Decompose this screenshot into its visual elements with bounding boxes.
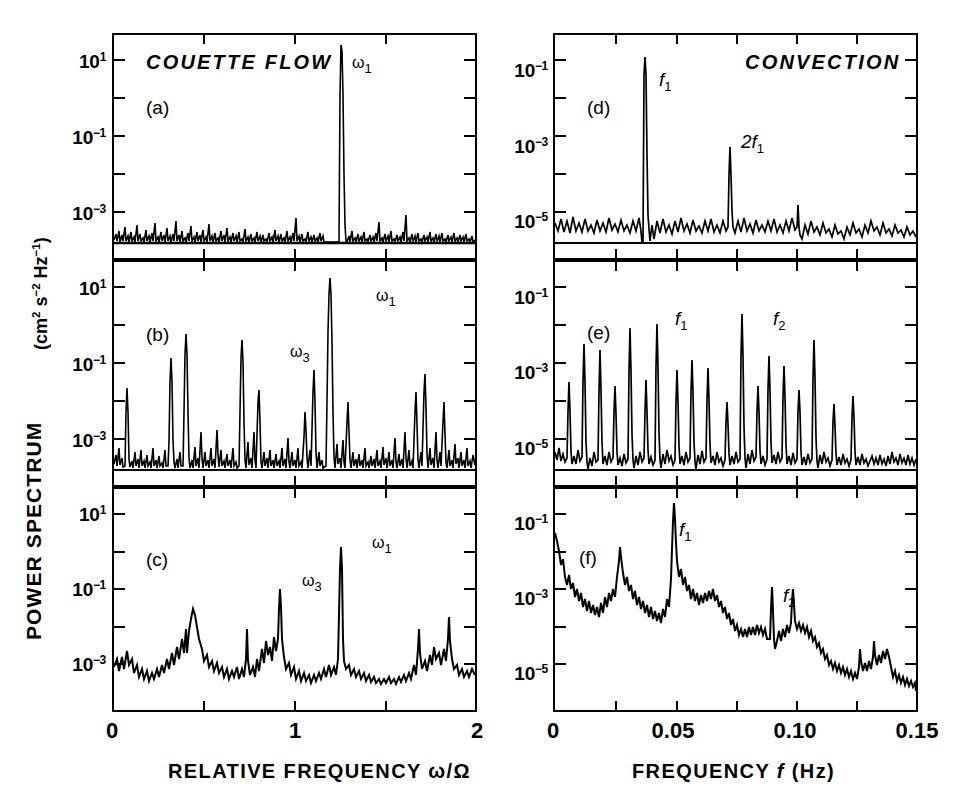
column-title-left: COUETTE FLOW [146,51,332,74]
x-tick-label-left-0: 0 [96,718,128,744]
x-tick-label-right-0: 0 [537,718,569,744]
panel-label-f: (f) [579,547,597,569]
x-tick-label-right-015: 0.15 [880,718,954,744]
peak-label-d-f1: f1 [659,69,672,94]
panel-label-c: (c) [146,549,168,571]
y-tick-label-e-m5: 10−5 [466,437,548,460]
y-tick-label-e-m3: 10−3 [466,361,548,384]
y-tick-label-d-m1: 10−1 [466,59,548,82]
panel-c: (c) ω3 ω1 [112,487,477,712]
y-tick-label-f-m1: 10−1 [466,512,548,535]
peak-label-e-f2: f2 [773,308,786,333]
y-axis-title: POWER SPECTRUM [22,422,46,640]
peak-label-c-omega1: ω1 [372,531,392,556]
panel-label-d: (d) [587,97,610,119]
peak-label-b-omega1: ω1 [376,284,396,309]
panel-b: (b) ω3 ω1 [112,260,477,487]
x-axis-title-left: RELATIVE FREQUENCY ω/Ω [168,760,471,783]
y-tick-label-c-m3: 10−3 [20,653,106,676]
y-tick-label-b-m3: 10−3 [20,429,106,452]
y-tick-label-d-m3: 10−3 [466,135,548,158]
peak-label-a-omega1: ω1 [352,51,372,76]
panel-e: (e) f1 f2 [553,260,918,487]
panel-a: COUETTE FLOW (a) ω1 [112,33,477,260]
y-tick-label-c-m1: 10−1 [20,578,106,601]
x-axis-title-right: FREQUENCY f (Hz) [632,760,835,783]
y-tick-label-f-m5: 10−5 [466,662,548,685]
x-tick-label-right-005: 0.05 [636,718,710,744]
y-tick-label-c-1: 101 [20,503,106,526]
panel-label-a: (a) [146,97,169,119]
figure-power-spectra: POWER SPECTRUM (cm2 s−2 Hz−1) RELATIVE F… [0,0,960,797]
y-tick-label-a-1: 101 [20,50,106,73]
spectrum-trace-f [555,489,916,710]
y-tick-label-a-m3: 10−3 [20,202,106,225]
peak-label-c-omega3: ω3 [302,569,322,594]
x-tick-label-left-2: 2 [461,718,493,744]
x-tick-label-left-1: 1 [279,718,311,744]
y-tick-label-b-m1: 10−1 [20,353,106,376]
panel-d: CONVECTION (d) f1 2f1 [553,33,918,260]
y-tick-label-b-1: 101 [20,277,106,300]
x-tick-label-right-010: 0.10 [758,718,832,744]
peak-label-b-omega3: ω3 [290,340,310,365]
peak-label-f-f2: f2 [783,585,796,610]
spectrum-trace-e [555,262,916,485]
y-tick-label-a-m1: 10−1 [20,126,106,149]
peak-label-d-2f1: 2f1 [741,131,764,156]
panel-label-e: (e) [587,322,610,344]
y-tick-label-f-m3: 10−3 [466,587,548,610]
peak-label-f-f1: f1 [679,519,692,544]
y-tick-label-d-m5: 10−5 [466,210,548,233]
y-tick-label-e-m1: 10−1 [466,286,548,309]
spectrum-trace-c [114,489,475,710]
spectrum-trace-b [114,262,475,485]
panel-label-b: (b) [146,324,169,346]
column-title-right: CONVECTION [745,51,900,74]
panel-f: (f) f1 f2 [553,487,918,712]
peak-label-e-f1: f1 [675,308,688,333]
